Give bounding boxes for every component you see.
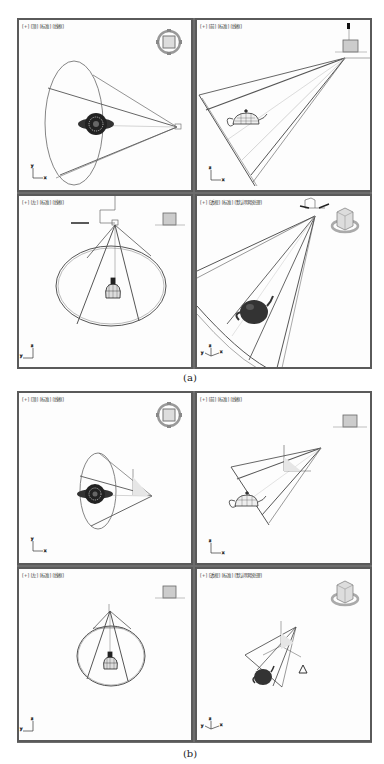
spotlight-cone (199, 58, 370, 186)
svg-text:z: z (31, 716, 33, 721)
axis-gizmo: yx (31, 536, 47, 553)
figure-a: [+] [顶] [标准] [线框] (17, 18, 372, 369)
viewport-scene: yx (19, 20, 191, 190)
viewport-perspective[interactable]: [+] [透视] [标准] [默认明暗处理] (195, 194, 372, 369)
spotlight-cone (77, 604, 145, 686)
compass-ring-icon[interactable] (156, 402, 182, 428)
viewport-top[interactable]: [+] [顶] [标准] [线框] (17, 18, 193, 192)
axis-gizmo: zx (209, 538, 225, 555)
spotlight-cone (197, 198, 329, 367)
figure-b: [+] [顶] [标准] [线框] (17, 391, 372, 743)
axis-gizmo: yx (31, 163, 47, 180)
svg-text:y: y (31, 536, 34, 541)
svg-text:z: z (209, 716, 211, 721)
teapot-wireframe (105, 278, 121, 298)
teapot-top-view (77, 484, 113, 504)
svg-text:x: x (222, 177, 225, 182)
spotlight-cone (45, 61, 191, 185)
axis-gizmo: zy (20, 343, 33, 358)
viewport-scene: yx (19, 393, 191, 563)
viewcube-3d-icon[interactable] (332, 208, 358, 232)
svg-text:y: y (20, 353, 23, 358)
viewcube-flat-icon[interactable] (333, 415, 367, 427)
viewport-perspective[interactable]: [+] [透视] [标准] [默认明暗处理] (195, 567, 372, 742)
viewport-top[interactable]: [+] [顶] [标准] [线框] (17, 391, 193, 565)
compass-ring-icon[interactable] (156, 29, 182, 55)
viewcube-flat-icon[interactable] (335, 23, 367, 52)
svg-text:x: x (44, 548, 47, 553)
axis-gizmo: zxy (201, 343, 223, 356)
axis-gizmo: zx (209, 165, 225, 182)
viewport-left[interactable]: [+] [左] [标准] [线框] (17, 194, 193, 369)
teapot-wireframe (227, 110, 267, 126)
svg-text:z: z (31, 343, 33, 348)
svg-text:z: z (209, 538, 211, 543)
svg-text:y: y (201, 723, 204, 728)
teapot-wireframe (103, 652, 118, 669)
svg-text:z: z (209, 343, 211, 348)
svg-text:x: x (222, 550, 225, 555)
spotlight-cone (56, 196, 166, 326)
spotlight-cone (231, 445, 321, 525)
svg-text:y: y (201, 350, 204, 355)
viewport-front[interactable]: [+] [前] [标准] [线框] (195, 18, 372, 192)
svg-text:y: y (31, 163, 34, 168)
viewcube-flat-icon[interactable] (155, 586, 185, 598)
svg-text:x: x (220, 349, 223, 354)
viewport-scene: zy (19, 569, 191, 740)
teapot-wireframe (229, 492, 266, 508)
viewcube-3d-icon[interactable] (332, 581, 358, 605)
viewport-scene: zxy (197, 196, 370, 367)
axis-gizmo: zxy (201, 716, 223, 729)
figure-caption-b: (b) (170, 748, 210, 759)
teapot-top-view (78, 113, 114, 135)
svg-text:y: y (20, 726, 23, 731)
axis-gizmo: zy (20, 716, 33, 731)
viewcube-flat-icon[interactable] (155, 213, 185, 225)
viewport-scene: zx (197, 393, 370, 563)
svg-text:z: z (209, 165, 211, 170)
figure-caption-a: (a) (170, 372, 210, 383)
svg-text:x: x (220, 722, 223, 727)
viewport-scene: zx (197, 20, 370, 190)
viewport-left[interactable]: [+] [左] [标准] [线框] (17, 567, 193, 742)
viewport-front[interactable]: [+] [前] [标准] [线框] (195, 391, 372, 565)
viewport-scene: zxy (197, 569, 370, 740)
viewport-scene: zy (19, 196, 191, 367)
teapot-shaded (253, 666, 274, 685)
svg-text:x: x (44, 175, 47, 180)
